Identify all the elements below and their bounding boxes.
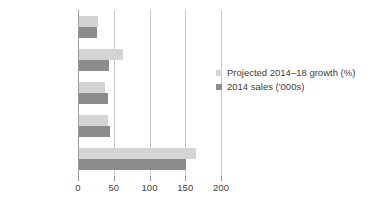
bar <box>79 27 97 38</box>
x-axis-tick-label: 150 <box>165 182 205 194</box>
x-axis-tick-label: 100 <box>130 182 170 194</box>
bar <box>79 82 105 93</box>
bar <box>79 126 110 137</box>
x-axis-tick-label: 50 <box>94 182 134 194</box>
legend-label: Projected 2014–18 growth (%) <box>227 66 355 80</box>
legend-item[interactable]: Projected 2014–18 growth (%) <box>216 66 355 80</box>
x-axis-tick <box>114 176 115 181</box>
bar <box>79 115 108 126</box>
legend-swatch-icon <box>216 84 222 90</box>
x-axis-tick <box>78 176 79 181</box>
bar <box>79 49 123 60</box>
x-axis-tick <box>221 176 222 181</box>
bar-chart: 050100150200 GermanySouth KoreaJapanNort… <box>0 0 372 204</box>
x-axis-tick <box>150 176 151 181</box>
bar <box>79 60 109 71</box>
x-axis-tick-label: 200 <box>201 182 241 194</box>
chart-legend: Projected 2014–18 growth (%)2014 sales (… <box>216 66 355 94</box>
bar <box>79 93 108 104</box>
bar <box>79 16 98 27</box>
legend-item[interactable]: 2014 sales ('000s) <box>216 80 355 94</box>
x-axis-tick <box>185 176 186 181</box>
bar <box>79 159 186 170</box>
legend-swatch-icon <box>216 70 222 76</box>
bar <box>79 148 196 159</box>
plot-area <box>78 10 221 176</box>
x-axis-tick-label: 0 <box>58 182 98 194</box>
legend-label: 2014 sales ('000s) <box>227 80 304 94</box>
